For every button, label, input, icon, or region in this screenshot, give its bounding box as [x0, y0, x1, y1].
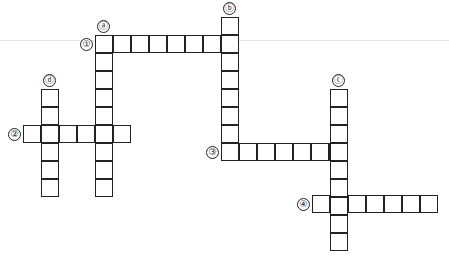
crossword-cell[interactable] [131, 35, 149, 53]
crossword-cell[interactable] [239, 143, 257, 161]
crossword-cell[interactable] [41, 143, 59, 161]
down-clue-number: ⓑ [223, 2, 236, 15]
crossword-cell[interactable] [221, 53, 239, 71]
crossword-cell[interactable] [221, 143, 239, 161]
crossword-cell[interactable] [113, 125, 131, 143]
across-clue-number: ① [80, 38, 93, 51]
crossword-cell[interactable] [330, 125, 348, 143]
crossword-cell[interactable] [95, 107, 113, 125]
crossword-cell[interactable] [330, 89, 348, 107]
crossword-cell[interactable] [95, 89, 113, 107]
crossword-cell[interactable] [384, 195, 402, 213]
crossword-cell[interactable] [275, 143, 293, 161]
crossword-cell[interactable] [330, 215, 348, 233]
crossword-cell[interactable] [167, 35, 185, 53]
crossword-cell[interactable] [221, 89, 239, 107]
across-clue-number: ③ [206, 146, 219, 159]
crossword-cell[interactable] [95, 35, 113, 53]
crossword-cell[interactable] [185, 35, 203, 53]
crossword-cell[interactable] [203, 35, 221, 53]
crossword-cell[interactable] [348, 195, 366, 213]
crossword-cell[interactable] [330, 233, 348, 251]
crossword-cell[interactable] [221, 17, 239, 35]
crossword-cell[interactable] [293, 143, 311, 161]
crossword-cell[interactable] [221, 107, 239, 125]
down-clue-number: ⓒ [332, 74, 345, 87]
crossword-cell[interactable] [149, 35, 167, 53]
crossword-cell[interactable] [23, 125, 41, 143]
crossword-cell[interactable] [257, 143, 275, 161]
across-clue-number: ④ [297, 198, 310, 211]
crossword-cell[interactable] [221, 71, 239, 89]
crossword-cell[interactable] [402, 195, 420, 213]
crossword-cell[interactable] [330, 107, 348, 125]
crossword-cell[interactable] [330, 143, 348, 161]
crossword-cell[interactable] [113, 35, 131, 53]
down-clue-number: ⓓ [43, 74, 56, 87]
crossword-cell[interactable] [366, 195, 384, 213]
crossword-cell[interactable] [95, 143, 113, 161]
crossword-cell[interactable] [95, 71, 113, 89]
crossword-cell[interactable] [95, 161, 113, 179]
crossword-cell[interactable] [77, 125, 95, 143]
crossword-cell[interactable] [221, 125, 239, 143]
crossword-cell[interactable] [330, 179, 348, 197]
across-clue-number: ② [8, 128, 21, 141]
crossword-cell[interactable] [221, 35, 239, 53]
crossword-cell[interactable] [420, 195, 438, 213]
crossword-cell[interactable] [41, 179, 59, 197]
crossword-cell[interactable] [330, 161, 348, 179]
crossword-cell[interactable] [95, 53, 113, 71]
crossword-cell[interactable] [330, 197, 348, 215]
crossword-cell[interactable] [311, 143, 329, 161]
crossword-cell[interactable] [41, 161, 59, 179]
crossword-cell[interactable] [312, 195, 330, 213]
down-clue-number: ⓐ [97, 20, 110, 33]
crossword-cell[interactable] [95, 179, 113, 197]
crossword-cell[interactable] [95, 125, 113, 143]
crossword-cell[interactable] [41, 125, 59, 143]
crossword-cell[interactable] [59, 125, 77, 143]
crossword-cell[interactable] [41, 107, 59, 125]
crossword-cell[interactable] [41, 89, 59, 107]
